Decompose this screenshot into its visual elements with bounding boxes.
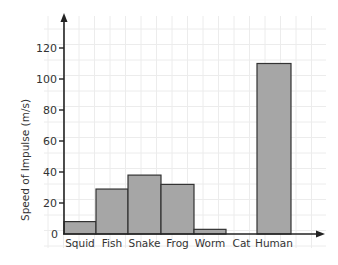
y-axis-arrow-icon [61,13,68,22]
bar-human [257,64,291,235]
bar-fish [96,189,128,234]
x-category-label: Human [255,237,293,249]
x-category-label: Frog [166,237,188,249]
y-tick-label: 0 [51,228,58,241]
bar-frog [161,184,194,234]
y-axis-title: Speed of Impulse (m/s) [19,99,31,221]
x-category-label: Squid [65,237,95,249]
bar-chart: 020406080100120 SquidFishSnakeFrogWormCa… [0,0,338,265]
y-tick-label: 80 [43,104,57,117]
y-tick-label: 60 [43,135,57,148]
x-category-label: Worm [195,237,226,249]
x-axis-arrow-icon [316,231,325,238]
y-tick-label: 20 [43,197,57,210]
x-category-label: Cat [233,237,251,249]
x-category-labels: SquidFishSnakeFrogWormCatHuman [65,237,293,249]
bar-snake [128,175,161,234]
x-category-label: Snake [129,237,161,249]
y-ticks: 020406080100120 [36,42,64,241]
x-category-label: Fish [102,237,122,249]
y-tick-label: 40 [43,166,57,179]
bar-squid [64,222,96,234]
y-tick-label: 120 [36,42,57,55]
bars [64,64,291,235]
y-tick-label: 100 [36,73,57,86]
